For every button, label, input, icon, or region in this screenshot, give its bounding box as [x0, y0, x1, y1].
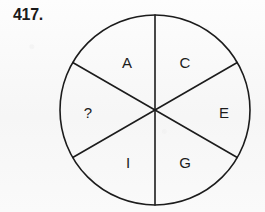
- sector-label-g: G: [179, 154, 191, 171]
- sector-label-c: C: [180, 54, 191, 71]
- sector-label-a: A: [122, 54, 132, 71]
- six-sector-circle-figure: A C E G I ?: [0, 0, 265, 212]
- sector-label-e: E: [219, 104, 229, 121]
- sector-label-i: I: [126, 154, 130, 171]
- sector-label-unknown: ?: [84, 104, 92, 121]
